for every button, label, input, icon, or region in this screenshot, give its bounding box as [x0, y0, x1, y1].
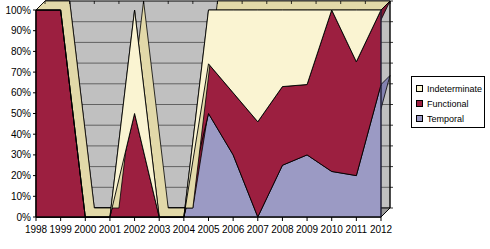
svg-text:1998: 1998: [25, 224, 48, 235]
legend-item-temporal[interactable]: Temporal: [416, 111, 481, 126]
svg-text:2004: 2004: [173, 224, 196, 235]
y-axis: 0%10%20%30%40%50%60%70%80%90%100%: [5, 5, 36, 223]
svg-text:2002: 2002: [123, 224, 146, 235]
legend-item-indeterminate[interactable]: Indeterminate: [416, 81, 481, 96]
svg-text:2003: 2003: [148, 224, 171, 235]
svg-text:1999: 1999: [50, 224, 73, 235]
svg-text:70%: 70%: [11, 67, 31, 78]
svg-text:0%: 0%: [17, 212, 32, 223]
legend-label-temporal: Temporal: [427, 114, 464, 124]
legend-label-functional: Functional: [427, 99, 469, 109]
svg-text:80%: 80%: [11, 46, 31, 57]
x-axis: 1998199920002001200220032004200520062007…: [25, 217, 393, 235]
svg-text:2010: 2010: [321, 224, 344, 235]
svg-text:40%: 40%: [11, 129, 31, 140]
svg-text:20%: 20%: [11, 170, 31, 181]
legend-swatch-temporal: [416, 115, 423, 122]
svg-text:2012: 2012: [370, 224, 393, 235]
legend-label-indeterminate: Indeterminate: [427, 84, 482, 94]
svg-text:2008: 2008: [271, 224, 294, 235]
legend-swatch-functional: [416, 100, 423, 107]
legend-swatch-indeterminate: [416, 85, 423, 92]
svg-text:10%: 10%: [11, 191, 31, 202]
chart-legend: Indeterminate Functional Temporal: [411, 76, 485, 128]
svg-text:2000: 2000: [74, 224, 97, 235]
svg-text:90%: 90%: [11, 25, 31, 36]
svg-text:2001: 2001: [99, 224, 122, 235]
svg-text:50%: 50%: [11, 108, 31, 119]
legend-item-functional[interactable]: Functional: [416, 96, 481, 111]
svg-text:2007: 2007: [247, 224, 270, 235]
svg-text:30%: 30%: [11, 149, 31, 160]
svg-text:2009: 2009: [296, 224, 319, 235]
svg-text:2006: 2006: [222, 224, 245, 235]
svg-text:100%: 100%: [5, 5, 31, 16]
stacked-area-chart: 0%10%20%30%40%50%60%70%80%90%100%1998199…: [0, 0, 490, 249]
svg-text:2005: 2005: [197, 224, 220, 235]
svg-text:2011: 2011: [346, 224, 368, 235]
svg-text:60%: 60%: [11, 87, 31, 98]
